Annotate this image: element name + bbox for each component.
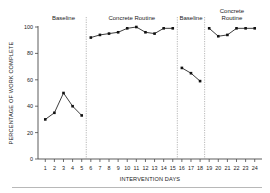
x-tick-label: 4 — [71, 165, 74, 171]
data-point — [117, 31, 120, 34]
x-tick-label: 12 — [142, 165, 148, 171]
y-tick-label: 0 — [30, 156, 33, 162]
data-point — [171, 27, 174, 30]
data-point — [80, 114, 83, 117]
data-point — [181, 67, 184, 70]
phase-label-2: Concrete Routine — [108, 15, 155, 21]
data-point — [99, 34, 102, 37]
data-point — [190, 72, 193, 75]
data-point — [53, 112, 56, 115]
chart-plot-area: 0204060801001234567891011121314151617181… — [0, 0, 270, 193]
x-tick-label: 21 — [224, 165, 230, 171]
data-point — [90, 36, 93, 39]
figure-bottom-rule — [12, 187, 262, 188]
x-tick-label: 13 — [152, 165, 158, 171]
y-tick-label: 20 — [27, 130, 33, 136]
data-point — [135, 26, 138, 29]
y-tick-label: 80 — [27, 50, 33, 56]
x-tick-label: 14 — [161, 165, 167, 171]
x-axis-title: INTERVENTION DAYS — [120, 176, 181, 182]
data-point — [217, 35, 220, 38]
phase-line-2 — [91, 27, 173, 38]
x-tick-label: 5 — [80, 165, 83, 171]
data-point — [226, 34, 229, 37]
x-tick-label: 18 — [197, 165, 203, 171]
phase-line-1 — [45, 93, 81, 119]
data-point — [108, 32, 111, 35]
x-tick-label: 20 — [215, 165, 221, 171]
x-tick-label: 9 — [117, 165, 120, 171]
x-tick-label: 22 — [234, 165, 240, 171]
phase-label-3: Baseline — [179, 15, 203, 21]
x-tick-label: 11 — [134, 165, 140, 171]
x-tick-label: 19 — [206, 165, 212, 171]
data-point — [126, 27, 129, 30]
x-tick-label: 10 — [124, 165, 130, 171]
data-point — [71, 105, 74, 108]
phase-label-4: Concrete — [220, 8, 245, 14]
x-tick-label: 6 — [89, 165, 92, 171]
x-tick-label: 17 — [188, 165, 194, 171]
x-tick-label: 23 — [243, 165, 249, 171]
data-point — [44, 118, 47, 121]
data-point — [244, 27, 247, 30]
data-point — [253, 27, 256, 30]
y-tick-label: 100 — [24, 24, 33, 30]
x-tick-label: 3 — [62, 165, 65, 171]
data-point — [144, 31, 147, 34]
data-point — [235, 27, 238, 30]
phase-label-1: Baseline — [52, 15, 76, 21]
y-tick-label: 40 — [27, 103, 33, 109]
x-tick-label: 24 — [252, 165, 258, 171]
data-point — [153, 32, 156, 35]
x-tick-label: 16 — [179, 165, 185, 171]
chart-figure: 0204060801001234567891011121314151617181… — [0, 0, 270, 193]
x-tick-label: 15 — [170, 165, 176, 171]
y-tick-label: 60 — [27, 77, 33, 83]
phase-line-3 — [182, 68, 200, 81]
phase-line-4 — [209, 28, 255, 36]
phase-label-4: Routine — [222, 15, 243, 21]
data-point — [208, 27, 211, 30]
x-tick-label: 8 — [108, 165, 111, 171]
x-tick-label: 2 — [53, 165, 56, 171]
x-tick-label: 7 — [98, 165, 101, 171]
y-axis-title: PERCENTAGE OF WORK COMPLETE — [8, 41, 14, 144]
data-point — [199, 80, 202, 83]
data-point — [162, 27, 165, 30]
data-point — [62, 92, 65, 95]
x-tick-label: 1 — [44, 165, 47, 171]
